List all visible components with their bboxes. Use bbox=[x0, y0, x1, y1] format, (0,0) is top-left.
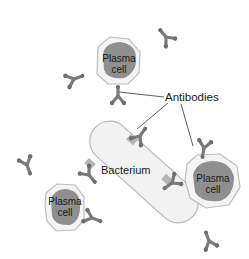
diagram-graphics bbox=[0, 0, 249, 259]
antibody-free-topleft bbox=[63, 68, 88, 90]
antibody-free-topright bbox=[153, 23, 179, 49]
antibody-diagram: Plasma cell Antibodies Bacterium Plasma … bbox=[0, 0, 249, 259]
antibody-cell-top bbox=[110, 85, 126, 105]
antibody-bound-left bbox=[77, 163, 103, 189]
plasma-cell-bottom-left-label: Plasma cell bbox=[46, 197, 84, 218]
antibodies-label: Antibodies bbox=[165, 91, 219, 103]
label-line1: Plasma bbox=[46, 197, 84, 208]
plasma-cell-top-label: Plasma cell bbox=[101, 54, 137, 75]
plasma-cell-right-label: Plasma cell bbox=[193, 174, 233, 195]
label-line1: Plasma bbox=[193, 174, 233, 185]
label-line2: cell bbox=[101, 65, 137, 76]
label-line1: Plasma bbox=[101, 54, 137, 65]
antibody-free-bottomright bbox=[198, 228, 220, 253]
label-line2: cell bbox=[193, 185, 233, 196]
label-line2: cell bbox=[46, 208, 84, 219]
bacterium-label: Bacterium bbox=[101, 165, 151, 177]
antibody-free-left bbox=[16, 154, 38, 179]
